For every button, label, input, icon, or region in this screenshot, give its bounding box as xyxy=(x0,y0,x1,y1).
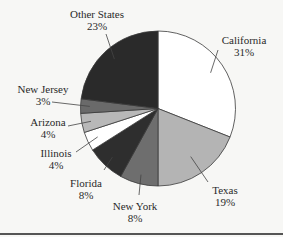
pie-slices xyxy=(80,31,235,186)
slice-label-name: California xyxy=(222,34,267,46)
slice-label-name: Texas xyxy=(212,184,238,196)
slice-label-percent: 19% xyxy=(215,196,235,208)
slice-label-percent: 8% xyxy=(79,189,94,201)
bottom-rule xyxy=(0,233,283,235)
pie-chart: California31%Texas19%New York8%Florida8%… xyxy=(0,0,283,237)
slice-label-percent: 8% xyxy=(128,212,143,224)
slice-label-name: Illinois xyxy=(40,147,71,159)
slice-label-percent: 23% xyxy=(87,20,107,32)
slice-label-name: Florida xyxy=(70,177,102,189)
slice-label-percent: 3% xyxy=(36,95,51,107)
slice-label-percent: 4% xyxy=(41,128,56,140)
slice-label-name: Other States xyxy=(70,8,124,20)
slice-label-percent: 31% xyxy=(234,46,254,58)
slice-label-name: New York xyxy=(113,200,158,212)
pie-slice-other-states xyxy=(81,31,158,109)
slice-label-name: Arizona xyxy=(30,116,66,128)
slice-label-name: New Jersey xyxy=(17,83,69,95)
slice-label-percent: 4% xyxy=(49,159,64,171)
